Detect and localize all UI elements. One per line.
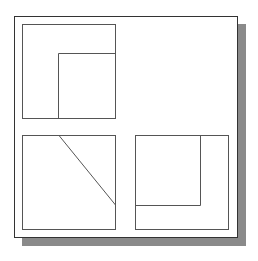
panel-bottom-left xyxy=(23,136,116,230)
diagram-canvas xyxy=(0,0,258,261)
panel-bottom-right xyxy=(136,136,229,230)
panel-top-left xyxy=(23,25,116,119)
diagonal-line xyxy=(59,136,116,206)
corner-l-line xyxy=(136,136,201,206)
corner-l-line xyxy=(59,54,116,119)
